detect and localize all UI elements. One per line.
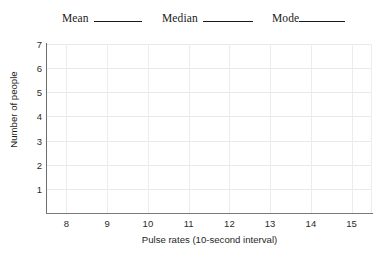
x-tick-label: 11 bbox=[174, 218, 204, 229]
x-tick-label: 10 bbox=[133, 218, 163, 229]
gridline-vertical bbox=[148, 44, 149, 213]
y-tick-label: 4 bbox=[20, 111, 42, 122]
y-tick-label: 7 bbox=[20, 39, 42, 50]
y-axis-ticks: 1234567 bbox=[18, 0, 42, 269]
gridline-horizontal bbox=[46, 189, 372, 190]
gridline-vertical bbox=[270, 44, 271, 213]
x-tick-label: 14 bbox=[296, 218, 326, 229]
y-tick-label: 1 bbox=[20, 183, 42, 194]
y-axis-line bbox=[46, 43, 47, 214]
x-tick-label: 9 bbox=[92, 218, 122, 229]
gridline-horizontal bbox=[46, 92, 372, 93]
y-axis-title: Number of people bbox=[8, 50, 19, 170]
x-axis-line bbox=[46, 213, 373, 214]
gridline-vertical bbox=[311, 44, 312, 213]
x-tick-label: 8 bbox=[51, 218, 81, 229]
y-tick-label: 5 bbox=[20, 87, 42, 98]
x-tick-label: 12 bbox=[214, 218, 244, 229]
gridline-vertical bbox=[189, 44, 190, 213]
gridline-horizontal bbox=[46, 141, 372, 142]
gridline-vertical bbox=[66, 44, 67, 213]
gridline-vertical bbox=[352, 44, 353, 213]
gridline-horizontal bbox=[46, 165, 372, 166]
gridline-horizontal bbox=[46, 68, 372, 69]
plot-area bbox=[46, 44, 372, 213]
histogram-chart: 1234567 89101112131415 Number of people … bbox=[0, 0, 388, 269]
x-axis-title: Pulse rates (10-second interval) bbox=[46, 234, 373, 245]
x-tick-label: 13 bbox=[255, 218, 285, 229]
y-tick-label: 2 bbox=[20, 159, 42, 170]
y-tick-label: 6 bbox=[20, 63, 42, 74]
gridline-vertical-edge bbox=[371, 44, 372, 213]
gridline-horizontal bbox=[46, 44, 372, 45]
worksheet-page: Mean Median Mode 1234567 89101112131415 … bbox=[0, 0, 388, 269]
gridline-vertical bbox=[107, 44, 108, 213]
gridline-vertical bbox=[229, 44, 230, 213]
y-tick-label: 3 bbox=[20, 135, 42, 146]
gridline-horizontal bbox=[46, 116, 372, 117]
x-tick-label: 15 bbox=[337, 218, 367, 229]
